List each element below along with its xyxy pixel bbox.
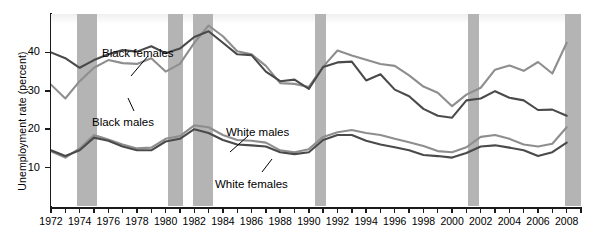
- x-axis-tick: [437, 208, 438, 213]
- x-axis-tick: [337, 208, 338, 213]
- x-axis-tick: [380, 208, 381, 213]
- y-axis-tick: [45, 128, 51, 130]
- y-axis-tick: [45, 90, 51, 92]
- x-axis-tick: [552, 208, 553, 213]
- unemployment-rate-chart: Unemployment rate (percent) 10203040 197…: [0, 0, 590, 244]
- x-axis-tick: [122, 208, 123, 213]
- x-axis-line: [50, 207, 582, 209]
- x-axis-tick: [151, 208, 152, 213]
- y-axis-tick: [45, 52, 51, 54]
- series-line: [51, 129, 567, 157]
- x-axis-tick: [509, 208, 510, 213]
- x-axis-tick: [408, 208, 409, 213]
- x-axis-tick: [308, 208, 309, 213]
- y-axis-tick-label: 10: [12, 161, 40, 173]
- x-axis-tick: [265, 208, 266, 213]
- x-axis-tick: [208, 208, 209, 213]
- x-axis-tick: [222, 208, 223, 213]
- x-axis-tick: [237, 208, 238, 213]
- x-axis-tick: [523, 208, 524, 213]
- x-axis-tick: [165, 208, 166, 213]
- x-axis-tick: [194, 208, 195, 213]
- x-axis-tick: [566, 208, 567, 213]
- y-axis-tick-label: 40: [12, 45, 40, 57]
- x-axis-tick: [537, 208, 538, 213]
- x-axis-tick: [322, 208, 323, 213]
- x-axis-tick: [580, 208, 581, 213]
- x-axis-tick: [423, 208, 424, 213]
- x-axis-tick: [351, 208, 352, 213]
- x-axis-tick: [466, 208, 467, 213]
- x-axis-tick: [451, 208, 452, 213]
- series-label: White males: [226, 126, 289, 138]
- x-axis-tick: [136, 208, 137, 213]
- x-axis-tick: [279, 208, 280, 213]
- series-lines-group: [51, 14, 581, 206]
- series-label: White females: [215, 178, 288, 190]
- x-axis-tick: [494, 208, 495, 213]
- plot-area: [51, 14, 581, 206]
- series-line: [51, 31, 567, 117]
- x-axis-tick-label: 2008: [550, 215, 584, 227]
- x-axis-tick: [294, 208, 295, 213]
- x-axis-tick: [108, 208, 109, 213]
- y-axis-tick-label: 20: [12, 122, 40, 134]
- x-axis-tick: [179, 208, 180, 213]
- x-axis-tick: [93, 208, 94, 213]
- y-axis-tick: [45, 167, 51, 169]
- y-axis-tick-label: 30: [12, 84, 40, 96]
- x-axis-tick: [65, 208, 66, 213]
- x-axis-tick: [480, 208, 481, 213]
- x-axis-tick: [50, 208, 51, 213]
- x-axis-tick: [79, 208, 80, 213]
- x-axis-tick: [251, 208, 252, 213]
- x-axis-tick: [394, 208, 395, 213]
- x-axis-tick: [365, 208, 366, 213]
- series-label: Black females: [102, 47, 174, 59]
- series-label: Black males: [92, 116, 154, 128]
